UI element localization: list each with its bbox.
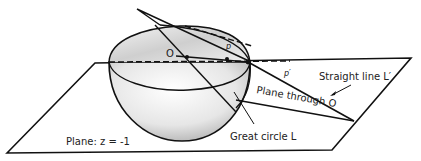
point-p-marker — [225, 57, 229, 61]
label-straight-line: Straight line L′ — [319, 71, 392, 82]
label-point-p-prime: p′ — [283, 69, 291, 78]
point-o-marker — [185, 55, 189, 59]
label-great-circle: Great circle L — [230, 131, 297, 142]
stereographic-projection-diagram: O p p′ Straight line L′ Plane through O … — [0, 0, 421, 161]
dashed-equator-line — [109, 61, 290, 62]
label-origin: O — [166, 48, 174, 59]
point-p-prime-marker — [246, 60, 251, 65]
label-point-p: p — [225, 42, 231, 51]
label-plane-z: Plane: z = -1 — [66, 136, 130, 147]
